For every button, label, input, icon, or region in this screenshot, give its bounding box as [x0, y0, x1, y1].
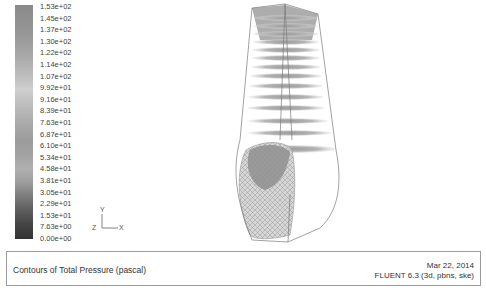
plot-title: Contours of Total Pressure (pascal) — [13, 265, 146, 275]
caption-box: Contours of Total Pressure (pascal) Mar … — [6, 251, 481, 286]
contour-geometry — [0, 0, 486, 250]
graphics-viewport[interactable]: 1.53e+02 1.45e+02 1.37e+02 1.30e+02 1.22… — [0, 0, 486, 250]
solver-info: FLUENT 6.3 (3d, pbns, ske) — [375, 271, 474, 280]
plot-date: Mar 22, 2014 — [427, 261, 474, 270]
